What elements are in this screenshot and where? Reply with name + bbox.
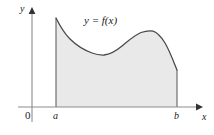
y-axis-label: y bbox=[20, 4, 24, 14]
upper-bound-label-b: b bbox=[174, 111, 179, 121]
figure-area-under-curve: y x 0 a b y = f(x) bbox=[0, 0, 214, 135]
x-axis-arrow-icon bbox=[196, 104, 203, 111]
x-axis-label: x bbox=[202, 112, 206, 122]
lower-bound-label-a: a bbox=[53, 111, 58, 121]
origin-label: 0 bbox=[25, 110, 31, 121]
curve-equation-label: y = f(x) bbox=[84, 15, 117, 26]
y-axis-arrow-icon bbox=[29, 7, 36, 14]
shaded-region-under-curve bbox=[56, 18, 177, 107]
